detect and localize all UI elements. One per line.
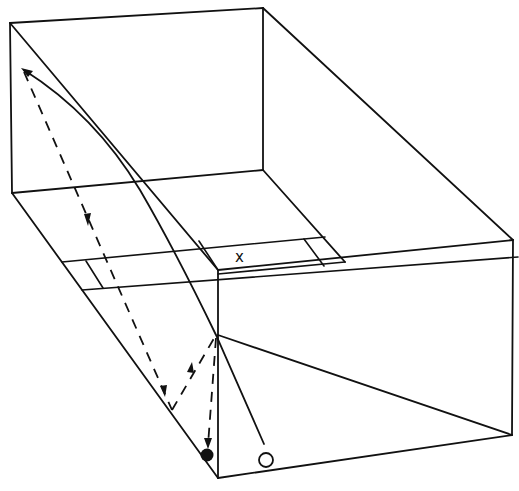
- left-bottom-edge: [12, 193, 218, 478]
- front-face-diagonal: [218, 335, 512, 435]
- start-open-circle-icon: [259, 453, 273, 467]
- top-back-edge: [10, 8, 263, 23]
- band-corner-line: [199, 241, 218, 270]
- dashed-arrow-final-icon: [204, 438, 212, 449]
- solid-curve-path: [24, 70, 264, 444]
- target-mark-label: x: [235, 248, 244, 266]
- dashed-bounce-up-path: [172, 335, 216, 410]
- dashed-final-drop-path: [208, 338, 216, 445]
- left-vertical-edge: [10, 23, 12, 193]
- end-filled-circle-icon: [201, 449, 214, 462]
- band-left-divider: [86, 261, 103, 288]
- dashed-arrow-down-2-icon: [160, 385, 167, 397]
- front-top-edge: [218, 240, 513, 270]
- front-right-vertical-edge: [512, 240, 513, 435]
- dashed-trajectory: [24, 72, 216, 449]
- top-right-edge: [263, 8, 513, 240]
- box-trajectory-diagram: x: [0, 0, 519, 491]
- back-right-floor-edge: [263, 170, 345, 262]
- band-right-divider: [304, 239, 324, 266]
- dashed-arrow-up-icon: [187, 362, 194, 373]
